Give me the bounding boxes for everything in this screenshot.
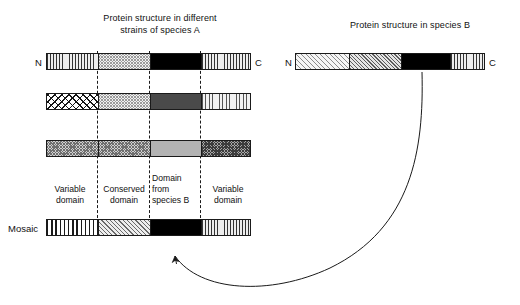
domain-label-from-species-b: Domain from species B xyxy=(152,173,200,206)
segment-conserved-domain xyxy=(98,54,150,69)
segment-conserved-domain xyxy=(98,141,150,156)
segment-1 xyxy=(296,54,349,69)
protein-bar-mosaic xyxy=(46,219,251,236)
figure-canvas: Protein structure in different strains o… xyxy=(0,0,520,305)
segment-species-b-domain xyxy=(150,54,201,69)
arrowhead-stem xyxy=(175,256,177,264)
segment-variable-domain xyxy=(201,94,250,109)
segment-4 xyxy=(450,54,484,69)
segment-variable-domain xyxy=(201,54,250,69)
protein-bar-strain-3 xyxy=(46,140,251,157)
n-terminus-label-row1: N xyxy=(35,58,42,68)
segment-variable-domain xyxy=(201,220,250,235)
protein-bar-strain-1 xyxy=(46,53,251,70)
domain-label-variable-left: Variable domain xyxy=(41,184,99,206)
domain-label-conserved: Conserved domain xyxy=(98,184,150,206)
segment-conserved-domain xyxy=(98,94,150,109)
protein-bar-strain-2 xyxy=(46,93,251,110)
segment-variable-domain xyxy=(47,141,98,156)
n-terminus-label-species-b: N xyxy=(285,58,292,68)
segment-species-b-domain xyxy=(150,141,201,156)
segment-species-b-domain xyxy=(150,220,201,235)
segment-variable-domain xyxy=(47,220,98,235)
arrowhead-icon xyxy=(172,256,178,263)
panel-b-title: Protein structure in species B xyxy=(300,19,520,31)
domain-label-variable-right: Variable domain xyxy=(202,184,254,206)
guide-line-3 xyxy=(200,51,201,223)
segment-2 xyxy=(349,54,401,69)
mosaic-row-label: Mosaic xyxy=(8,224,38,234)
segment-variable-domain xyxy=(47,94,98,109)
segment-variable-domain xyxy=(47,54,98,69)
segment-variable-domain xyxy=(201,141,250,156)
segment-species-b-domain xyxy=(150,94,201,109)
protein-bar-species-b xyxy=(295,53,485,70)
panel-a-title: Protein structure in different strains o… xyxy=(60,12,260,36)
c-terminus-label-row1: C xyxy=(255,58,262,68)
segment-transferred-domain xyxy=(401,54,450,69)
segment-conserved-domain xyxy=(98,220,150,235)
c-terminus-label-species-b: C xyxy=(489,58,496,68)
